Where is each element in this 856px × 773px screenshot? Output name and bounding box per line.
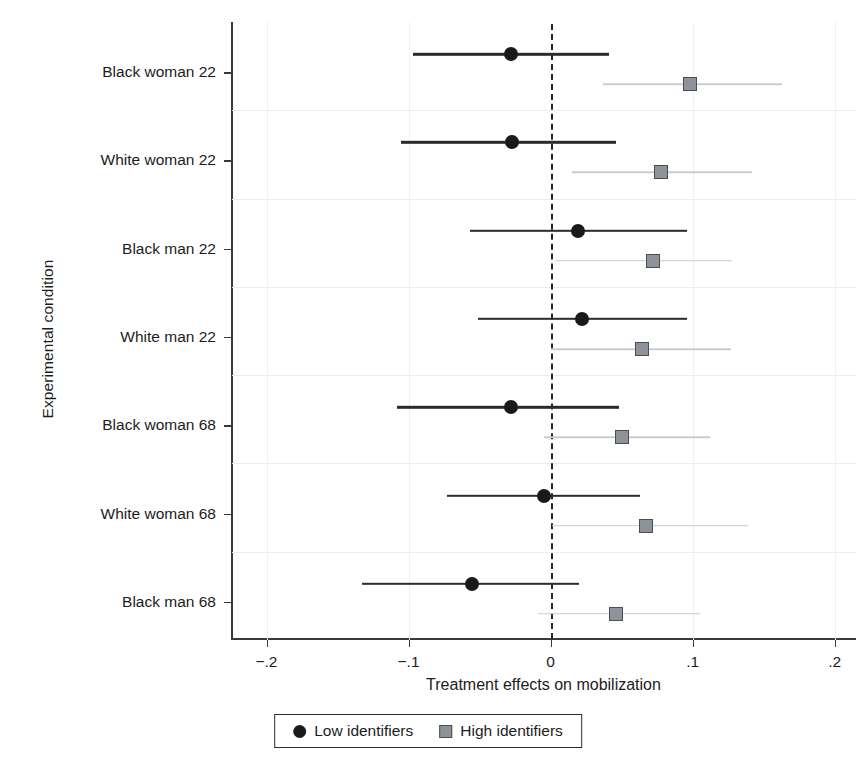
y-axis-tick-label: White woman 22 [0, 151, 216, 169]
x-axis-tick-label: 0 [546, 653, 555, 671]
point-marker-low-identifiers [504, 47, 518, 61]
point-marker-low-identifiers [537, 489, 551, 503]
point-marker-low-identifiers [575, 312, 589, 326]
y-axis-tick [224, 337, 231, 338]
x-axis-tick [835, 640, 836, 647]
legend-entry[interactable]: Low identifiers [293, 722, 413, 740]
legend-label: High identifiers [460, 722, 563, 740]
gridline-vertical [835, 22, 836, 640]
point-marker-high-identifiers [615, 430, 629, 444]
y-axis-tick-label: White man 22 [0, 328, 216, 346]
point-marker-low-identifiers [505, 135, 519, 149]
legend-square-icon [439, 725, 452, 738]
plot-area: −.2−.10.1.2 [231, 22, 856, 640]
y-axis-tick [224, 72, 231, 73]
x-axis-tick [409, 640, 410, 647]
gridline-horizontal [232, 552, 856, 553]
point-marker-low-identifiers [571, 224, 585, 238]
y-axis-tick [224, 249, 231, 250]
x-axis-tick [267, 640, 268, 647]
y-axis-tick [224, 160, 231, 161]
gridline-vertical [693, 22, 694, 640]
x-axis-tick-label: −.1 [398, 653, 420, 671]
y-axis-tick [224, 514, 231, 515]
y-axis-tick-label: White woman 68 [0, 505, 216, 523]
point-marker-high-identifiers [609, 607, 623, 621]
x-axis-tick-label: .1 [686, 653, 699, 671]
point-marker-high-identifiers [654, 165, 668, 179]
x-axis-tick-label: −.2 [256, 653, 278, 671]
gridline-horizontal [232, 199, 856, 200]
point-marker-high-identifiers [683, 77, 697, 91]
y-axis-tick-label: Black man 22 [0, 240, 216, 258]
legend-circle-icon [293, 725, 306, 738]
x-axis-line [231, 638, 856, 640]
y-axis-tick-label: Black woman 68 [0, 416, 216, 434]
gridline-vertical [267, 22, 268, 640]
point-marker-high-identifiers [646, 254, 660, 268]
gridline-horizontal [232, 110, 856, 111]
x-axis-tick [693, 640, 694, 647]
forest-plot-figure: Experimental condition Black woman 22Whi… [0, 0, 856, 773]
gridline-horizontal [232, 375, 856, 376]
x-axis-title: Treatment effects on mobilization [231, 676, 856, 694]
point-marker-low-identifiers [465, 577, 479, 591]
legend-label: Low identifiers [314, 722, 413, 740]
y-axis-tick-label: Black man 68 [0, 593, 216, 611]
y-axis-tick [224, 602, 231, 603]
x-axis-tick [551, 640, 552, 647]
point-marker-low-identifiers [504, 400, 518, 414]
y-axis-category-labels: Black woman 22White woman 22Black man 22… [0, 0, 226, 640]
chart-legend: Low identifiersHigh identifiers [274, 714, 582, 748]
x-axis-tick-label: .2 [828, 653, 841, 671]
point-marker-high-identifiers [635, 342, 649, 356]
y-axis-tick [224, 425, 231, 426]
point-marker-high-identifiers [639, 519, 653, 533]
gridline-vertical [409, 22, 410, 640]
legend-entry[interactable]: High identifiers [439, 722, 563, 740]
gridline-horizontal [232, 463, 856, 464]
confidence-interval-bar [555, 260, 733, 262]
y-axis-tick-label: Black woman 22 [0, 63, 216, 81]
y-axis-line [231, 22, 233, 640]
zero-reference-line [551, 24, 553, 639]
gridline-horizontal [232, 287, 856, 288]
